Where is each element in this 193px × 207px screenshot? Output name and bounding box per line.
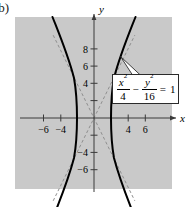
x-tick-label--4: −4	[55, 124, 66, 135]
x-axis-label: x	[179, 112, 185, 124]
y-tick-label--6: −6	[77, 164, 88, 175]
x-axis-arrowhead	[170, 116, 176, 121]
x-variable: x	[119, 76, 124, 88]
y-tick-label-4: 4	[83, 78, 88, 89]
y-exponent: 2	[150, 72, 154, 80]
y-tick-label-8: 8	[83, 44, 88, 55]
x-tick-label-4: 4	[126, 124, 131, 135]
equation-rhs: 1	[170, 84, 176, 95]
x-exponent: 2	[124, 72, 128, 80]
y-tick-label--4: −4	[77, 147, 88, 158]
fraction-y-numerator: y2	[143, 76, 155, 89]
minus-operator: −	[133, 84, 139, 95]
fraction-y-term: y2 16	[142, 76, 157, 102]
fraction-x-denominator: 4	[118, 90, 128, 102]
y-axis-label: y	[98, 3, 104, 15]
equation-text: x2 4 − y2 16 = 1	[116, 76, 176, 102]
fraction-y-denominator: 16	[142, 90, 157, 102]
figure-container: (b)	[0, 0, 193, 207]
equals-sign: =	[160, 84, 166, 95]
fraction-x-term: x2 4	[117, 76, 130, 102]
x-tick-label--6: −6	[38, 124, 49, 135]
equation-callout-box: x2 4 − y2 16 = 1	[112, 74, 179, 104]
x-tick-label-6: 6	[143, 124, 148, 135]
fraction-x-numerator: x2	[117, 76, 129, 89]
y-tick-label-6: 6	[83, 61, 88, 72]
